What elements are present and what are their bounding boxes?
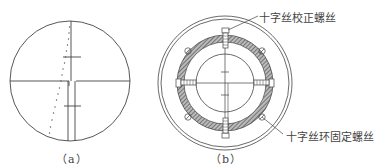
leader-bottom — [262, 117, 283, 134]
calibration-screw-top — [222, 28, 229, 48]
figure-a-reticle — [10, 21, 130, 141]
calibration-screw-right — [254, 79, 274, 87]
dotted-offset-line — [49, 26, 70, 133]
caption-b: （b） — [210, 150, 242, 166]
figure-b-reticle-assembly — [158, 16, 292, 150]
calibration-screw-bottom — [222, 118, 229, 138]
callout-ring-fixing-screw: 十字丝环固定螺丝 — [286, 128, 374, 144]
calibration-screw-left — [176, 79, 196, 87]
caption-a: （a） — [56, 150, 88, 166]
callout-calibration-screw: 十字丝校正螺丝 — [259, 9, 336, 25]
